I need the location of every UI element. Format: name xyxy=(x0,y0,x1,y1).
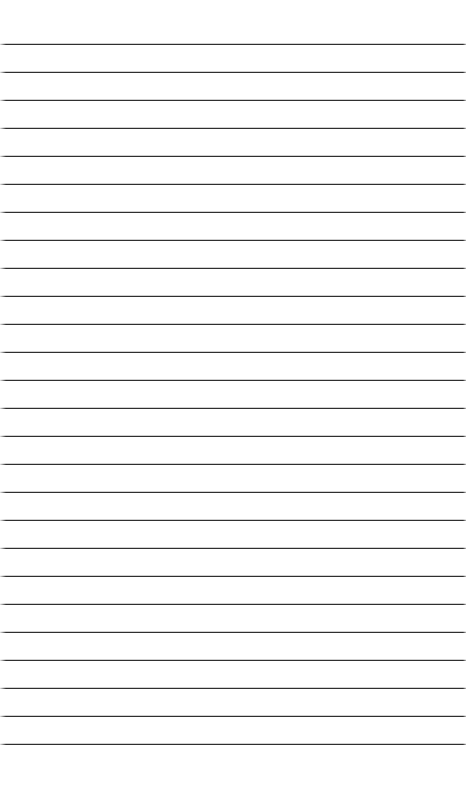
ruled-line xyxy=(0,519,466,521)
ruled-line xyxy=(0,631,466,633)
ruled-line xyxy=(0,267,466,269)
ruled-line xyxy=(0,715,466,717)
ruled-line xyxy=(0,71,466,73)
bottom-margin-region xyxy=(0,744,470,803)
ruled-line xyxy=(0,43,466,45)
ruled-lines-area xyxy=(0,0,470,803)
ruled-line xyxy=(0,351,466,353)
ruled-line xyxy=(0,547,466,549)
ruled-line xyxy=(0,407,466,409)
ruled-line xyxy=(0,99,466,101)
ruled-line xyxy=(0,127,466,129)
ruled-line xyxy=(0,659,466,661)
ruled-line xyxy=(0,155,466,157)
ruled-line xyxy=(0,463,466,465)
ruled-line xyxy=(0,687,466,689)
ruled-line xyxy=(0,211,466,213)
ruled-line xyxy=(0,435,466,437)
ruled-line xyxy=(0,491,466,493)
lined-paper-sheet xyxy=(0,0,470,803)
ruled-line xyxy=(0,575,466,577)
ruled-line xyxy=(0,379,466,381)
ruled-line xyxy=(0,603,466,605)
ruled-line xyxy=(0,295,466,297)
ruled-line xyxy=(0,183,466,185)
ruled-line xyxy=(0,239,466,241)
ruled-line xyxy=(0,323,466,325)
